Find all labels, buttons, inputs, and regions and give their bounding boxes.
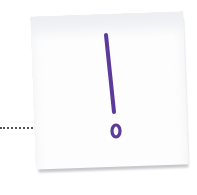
exclamation-icon <box>0 0 197 195</box>
